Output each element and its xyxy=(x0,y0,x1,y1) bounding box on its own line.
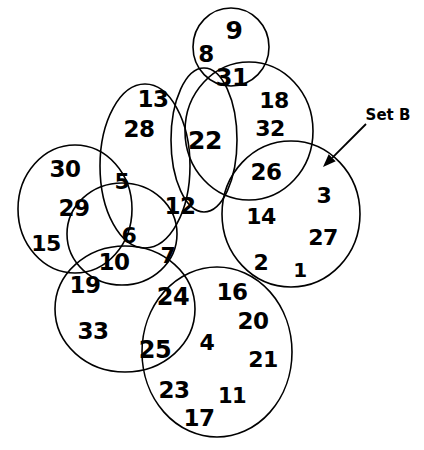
venn-element-17: 17 xyxy=(183,407,214,430)
venn-element-25: 25 xyxy=(139,338,171,362)
venn-element-28: 28 xyxy=(123,118,154,141)
annotation-arrows xyxy=(323,124,366,167)
venn-element-12: 12 xyxy=(164,195,195,218)
venn-element-16: 16 xyxy=(216,281,247,304)
venn-element-32: 32 xyxy=(255,118,285,140)
venn-element-3: 3 xyxy=(317,185,332,207)
venn-element-23: 23 xyxy=(158,379,189,402)
venn-element-6: 6 xyxy=(122,225,137,247)
venn-element-19: 19 xyxy=(69,274,100,297)
venn-element-21: 21 xyxy=(248,349,278,371)
venn-element-13: 13 xyxy=(137,88,168,111)
venn-diagram-figure: 9831131828223230526329121415627107211924… xyxy=(0,0,424,450)
venn-element-27: 27 xyxy=(308,227,338,249)
venn-element-29: 29 xyxy=(58,197,89,220)
venn-element-18: 18 xyxy=(259,90,289,112)
venn-element-20: 20 xyxy=(237,310,268,333)
venn-element-11: 11 xyxy=(218,386,246,407)
venn-element-7: 7 xyxy=(161,245,176,267)
venn-element-26: 26 xyxy=(250,161,281,184)
venn-element-1: 1 xyxy=(293,260,306,280)
venn-circles-layer xyxy=(0,0,424,450)
venn-element-9: 9 xyxy=(226,18,243,43)
venn-element-24: 24 xyxy=(157,285,189,309)
venn-element-14: 14 xyxy=(246,206,276,228)
venn-element-10: 10 xyxy=(98,251,129,274)
set-circles xyxy=(18,8,360,437)
venn-element-33: 33 xyxy=(77,320,108,343)
venn-element-31: 31 xyxy=(216,66,248,90)
venn-element-30: 30 xyxy=(49,158,80,181)
venn-element-4: 4 xyxy=(200,332,215,354)
circle-set-b xyxy=(222,141,360,287)
set-label-set-b: Set B xyxy=(366,106,411,124)
set-b-pointer-line xyxy=(332,124,366,158)
venn-element-2: 2 xyxy=(254,252,269,274)
venn-element-15: 15 xyxy=(31,233,61,255)
venn-element-8: 8 xyxy=(198,43,214,66)
venn-element-22: 22 xyxy=(188,128,222,153)
venn-element-5: 5 xyxy=(115,171,130,193)
